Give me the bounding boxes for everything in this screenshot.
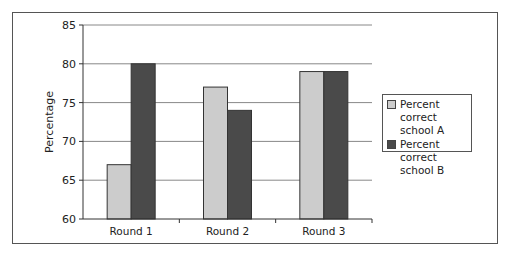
legend-label: school B (400, 164, 467, 177)
y-axis: 606570758085 (62, 19, 83, 226)
y-tick-label: 85 (62, 19, 76, 32)
y-tick-label: 70 (62, 135, 76, 148)
bar-school-b (228, 110, 252, 219)
bar-school-a (300, 72, 324, 219)
bars (107, 64, 348, 219)
x-tick-label: Round 3 (302, 225, 345, 237)
x-tick-label: Round 1 (110, 225, 153, 237)
legend-swatch-b (387, 140, 396, 149)
bar-school-b (131, 64, 155, 219)
x-axis: Round 1Round 2Round 3 (83, 219, 372, 237)
legend: Percent correct school A Percent correct… (382, 94, 472, 152)
bar-school-b (324, 72, 348, 219)
x-tick-label: Round 2 (206, 225, 249, 237)
y-tick-label: 65 (62, 174, 76, 187)
legend-label: Percent correct (400, 138, 467, 164)
legend-label: Percent correct (400, 98, 467, 124)
y-tick-label: 80 (62, 58, 76, 71)
bar-school-a (204, 87, 228, 219)
y-tick-label: 60 (62, 213, 76, 226)
legend-item-school-b: Percent correct school B (387, 138, 467, 177)
legend-item-school-a: Percent correct school A (387, 98, 467, 137)
y-axis-label: Percentage (43, 91, 56, 153)
legend-swatch-a (387, 100, 396, 109)
legend-label: school A (400, 124, 467, 137)
bar-school-a (107, 165, 131, 219)
y-tick-label: 75 (62, 97, 76, 110)
